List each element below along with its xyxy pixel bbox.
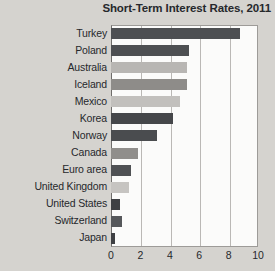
bar-row [111, 213, 258, 230]
bar-row [111, 76, 258, 93]
bar [111, 199, 120, 210]
bar-row [111, 127, 258, 144]
y-axis-label-canada: Canada [0, 146, 107, 158]
bar [111, 233, 115, 244]
bar-row [111, 59, 258, 76]
y-axis-label-mexico: Mexico [0, 95, 107, 107]
y-axis-label-united-kingdom: United Kingdom [0, 180, 107, 192]
bar-row [111, 179, 258, 196]
bar [111, 62, 187, 73]
y-axis-label-euro-area: Euro area [0, 163, 107, 175]
chart-title: Short-Term Interest Rates, 2011 [0, 2, 271, 14]
y-axis-label-japan: Japan [0, 231, 107, 243]
bar [111, 79, 187, 90]
bar [111, 216, 122, 227]
y-axis-label-switzerland: Switzerland [0, 214, 107, 226]
y-axis-label-norway: Norway [0, 129, 107, 141]
bar [111, 130, 157, 141]
bar [111, 96, 180, 107]
y-axis-label-iceland: Iceland [0, 78, 107, 90]
bar-row [111, 42, 258, 59]
x-axis-tick-4: 4 [167, 249, 173, 261]
bar-row [111, 230, 258, 247]
bar-row [111, 110, 258, 127]
x-axis-tick-10: 10 [252, 249, 264, 261]
bar-row [111, 25, 258, 42]
x-axis-tick-6: 6 [196, 249, 202, 261]
x-axis-tick-0: 0 [108, 249, 114, 261]
y-axis-label-poland: Poland [0, 44, 107, 56]
bar [111, 113, 173, 124]
bar-series [111, 25, 258, 247]
y-axis-category-labels: TurkeyPolandAustraliaIcelandMexicoKoreaN… [0, 25, 107, 247]
y-axis-label-turkey: Turkey [0, 27, 107, 39]
bar [111, 165, 131, 176]
x-axis-tick-2: 2 [137, 249, 143, 261]
x-axis-tick-labels: 0246810 [0, 249, 275, 265]
bar-row [111, 162, 258, 179]
y-axis-label-united-states: United States [0, 197, 107, 209]
bar [111, 28, 240, 39]
bar-chart-figure: Short-Term Interest Rates, 2011 TurkeyPo… [0, 0, 275, 271]
bar [111, 182, 129, 193]
bar [111, 148, 138, 159]
y-axis-label-korea: Korea [0, 112, 107, 124]
bar [111, 45, 189, 56]
y-axis-label-australia: Australia [0, 61, 107, 73]
x-axis-tick-8: 8 [226, 249, 232, 261]
bar-row [111, 93, 258, 110]
bar-row [111, 196, 258, 213]
plot-wrapper [111, 25, 258, 247]
bar-row [111, 145, 258, 162]
